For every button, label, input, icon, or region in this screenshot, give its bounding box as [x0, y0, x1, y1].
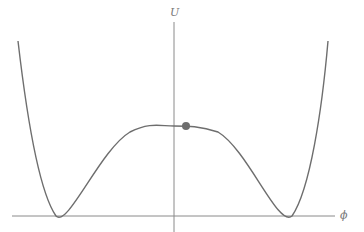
x-axis-label: ϕ [340, 209, 348, 222]
potential-curve [18, 41, 328, 217]
potential-diagram [0, 0, 364, 232]
state-point [182, 122, 190, 130]
y-axis-label: U [170, 6, 179, 19]
